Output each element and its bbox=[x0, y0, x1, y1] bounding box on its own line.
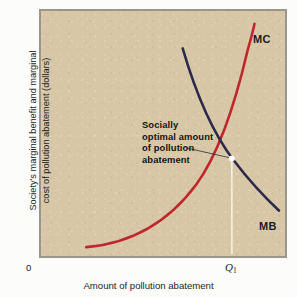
q1-subscript: 1 bbox=[233, 266, 237, 275]
q1-tick-label: Q1 bbox=[225, 261, 237, 273]
intersection-marker bbox=[229, 156, 235, 162]
annotation-line-2: optimal amount bbox=[142, 131, 228, 143]
y-axis-label-line-1: Society's marginal benefit and marginal bbox=[27, 16, 40, 246]
annotation-line-1: Socially bbox=[142, 119, 228, 131]
mb-curve-label: MB bbox=[259, 220, 277, 232]
annotation-line-4: abatement bbox=[142, 154, 228, 166]
origin-tick-label: 0 bbox=[26, 262, 31, 273]
y-axis-label: Society's marginal benefit and marginal … bbox=[27, 16, 52, 246]
x-axis-label: Amount of pollution abatement bbox=[0, 280, 297, 291]
y-axis-label-line-2: cost of pollution abatement (dollars) bbox=[39, 16, 52, 246]
annotation-line-3: of pollution bbox=[142, 142, 228, 154]
socially-optimal-annotation: Socially optimal amount of pollution aba… bbox=[142, 119, 228, 165]
plot-area: MC MB Socially optimal amount of polluti… bbox=[39, 9, 287, 258]
q1-letter: Q bbox=[225, 261, 233, 273]
figure-container: MC MB Socially optimal amount of polluti… bbox=[0, 0, 297, 297]
mc-curve-label: MC bbox=[253, 33, 271, 45]
